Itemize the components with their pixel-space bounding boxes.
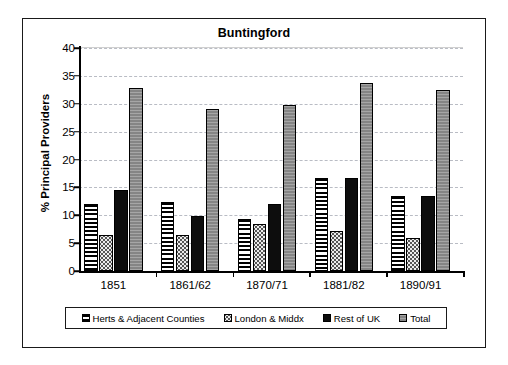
x-tick-label: 1870/71 (246, 279, 288, 291)
y-tick-label: 0 (45, 265, 75, 277)
y-tick-label: 25 (45, 126, 75, 138)
bars-layer (79, 48, 463, 271)
bar (330, 231, 344, 271)
bar (315, 178, 329, 271)
bar (268, 204, 282, 271)
legend-item[interactable]: London & Middx (224, 313, 304, 324)
y-tick-label: 20 (45, 154, 75, 166)
bar (238, 219, 252, 271)
bar (114, 190, 128, 271)
bar (391, 196, 405, 271)
legend-label: London & Middx (235, 313, 304, 324)
chart-screenshot: Buntingford % Principal Providers 051015… (0, 0, 508, 365)
y-tick-label: 30 (45, 98, 75, 110)
bar (283, 105, 297, 271)
y-axis-line (79, 46, 81, 273)
y-tick-label: 40 (45, 42, 75, 54)
x-axis-separator (386, 271, 388, 277)
y-axis-tick-labels: 0510152025303540 (37, 48, 75, 271)
bar (176, 235, 190, 271)
x-tick-label: 1851 (101, 279, 127, 291)
x-axis-tick-labels: 18511861/621870/711881/821890/91 (79, 279, 463, 299)
x-axis-separator (463, 271, 465, 277)
y-tick-label: 10 (45, 209, 75, 221)
bar (360, 83, 374, 271)
legend-label: Total (410, 313, 430, 324)
bar (206, 109, 220, 271)
bar (406, 238, 420, 271)
x-axis-separator (309, 271, 311, 277)
x-tick-label: 1861/62 (169, 279, 211, 291)
bar-group (156, 48, 233, 271)
bar (161, 202, 175, 271)
x-tick-label: 1881/82 (323, 279, 365, 291)
bar (84, 204, 98, 271)
chart-legend: Herts & Adjacent CountiesLondon & MiddxR… (65, 307, 447, 329)
chart-title: Buntingford (23, 26, 485, 40)
bar (345, 178, 359, 271)
bar (421, 196, 435, 271)
bar (99, 235, 113, 271)
legend-label: Herts & Adjacent Counties (93, 313, 205, 324)
x-tick-label: 1890/91 (400, 279, 442, 291)
legend-swatch-icon (399, 314, 407, 322)
y-tick-label: 35 (45, 70, 75, 82)
y-tick-label: 5 (45, 237, 75, 249)
x-axis-separator (156, 271, 158, 277)
x-axis-separator (233, 271, 235, 277)
x-axis-line (79, 271, 465, 273)
bar-group (233, 48, 310, 271)
y-tick-label: 15 (45, 181, 75, 193)
bar (129, 88, 143, 271)
bar-group (309, 48, 386, 271)
bar (436, 90, 450, 271)
bar-group (79, 48, 156, 271)
legend-swatch-icon (82, 314, 90, 322)
plot-area (79, 48, 463, 271)
legend-item[interactable]: Total (399, 313, 430, 324)
legend-label: Rest of UK (334, 313, 380, 324)
bar (191, 216, 205, 271)
legend-item[interactable]: Rest of UK (323, 313, 380, 324)
legend-swatch-icon (323, 314, 331, 322)
bar-group (386, 48, 463, 271)
legend-swatch-icon (224, 314, 232, 322)
legend-item[interactable]: Herts & Adjacent Counties (82, 313, 205, 324)
bar (253, 224, 267, 271)
chart-frame: Buntingford % Principal Providers 051015… (22, 18, 486, 348)
